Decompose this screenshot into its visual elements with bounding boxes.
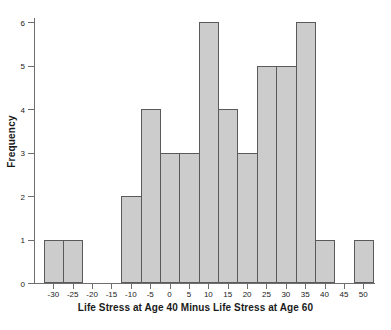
x-axis-tick-label: 35 [301,290,310,299]
x-axis-line [30,283,375,284]
x-axis-tick-label: 40 [320,290,329,299]
histogram-bar [121,196,141,283]
histogram-bar [141,109,161,283]
histogram-figure: Frequency 0123456 -30-25-20-15-10-505101… [0,0,391,330]
x-axis-tick [228,284,229,289]
x-axis-tick-label: 50 [359,290,368,299]
x-axis-tick [247,284,248,289]
x-axis-tick-label: 0 [167,290,171,299]
histogram-bar [44,240,64,284]
x-axis-title: Life Stress at Age 40 Minus Life Stress … [0,302,391,313]
histogram-bar [199,22,219,283]
x-axis-tick-label: 20 [243,290,252,299]
y-axis-tick-label: 0 [21,279,25,288]
histogram-bar [179,153,199,284]
x-axis-tick-label: 10 [204,290,213,299]
y-axis-tick: 0 [28,283,34,284]
x-axis-tick-label: 25 [262,290,271,299]
x-axis-tick-label: 15 [223,290,232,299]
histogram-bar [276,66,296,284]
x-axis-tick-label: -20 [86,290,98,299]
x-axis-tick [305,284,306,289]
histogram-bar [257,66,277,284]
x-axis-tick [363,284,364,289]
x-axis-tick [286,284,287,289]
x-axis-tick [73,284,74,289]
y-axis-title: Frequency [2,0,20,283]
x-axis-tick [325,284,326,289]
y-axis-tick-label: 2 [21,192,25,201]
x-axis-tick [92,284,93,289]
x-axis-tick-label: 45 [339,290,348,299]
histogram-bar [315,240,335,284]
plot-area [34,22,373,283]
x-axis-tick-label: -30 [48,290,60,299]
x-axis-tick-label: -5 [147,290,154,299]
x-axis-tick [150,284,151,289]
x-axis-tick-label: -10 [125,290,137,299]
x-axis-tick [189,284,190,289]
histogram-bar [218,109,238,283]
x-axis-tick [208,284,209,289]
x-axis-tick-label: -15 [106,290,118,299]
histogram-bar [354,240,374,284]
x-axis-tick-label: 30 [281,290,290,299]
y-axis-tick-label: 6 [21,18,25,27]
y-axis-tick-label: 4 [21,105,25,114]
x-axis-tick [344,284,345,289]
histogram-bar [63,240,83,284]
histogram-bar [296,22,316,283]
x-axis-tick [111,284,112,289]
histogram-bar [160,153,180,284]
x-axis-tick [170,284,171,289]
histogram-bar [237,153,257,284]
y-axis-tick-label: 5 [21,62,25,71]
x-axis-tick [131,284,132,289]
x-axis-tick-label: 5 [187,290,191,299]
y-axis-title-text: Frequency [6,115,17,167]
x-axis-tick [53,284,54,289]
y-axis-tick-label: 1 [21,236,25,245]
x-axis-tick-label: -25 [67,290,79,299]
y-axis-tick-label: 3 [21,149,25,158]
x-axis-tick [266,284,267,289]
